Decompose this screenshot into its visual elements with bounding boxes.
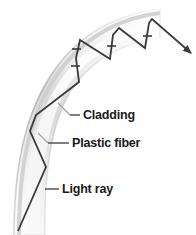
label-light-ray: Light ray	[45, 182, 113, 196]
plastic-fiber-label: Plastic fiber	[72, 136, 141, 150]
fiber-optic-diagram: Cladding Plastic fiber Light ray	[0, 0, 196, 235]
label-cladding: Cladding	[58, 103, 135, 122]
light-ray-label: Light ray	[62, 182, 113, 196]
cladding-label: Cladding	[83, 108, 135, 122]
diagram-canvas: Cladding Plastic fiber Light ray	[0, 0, 196, 235]
